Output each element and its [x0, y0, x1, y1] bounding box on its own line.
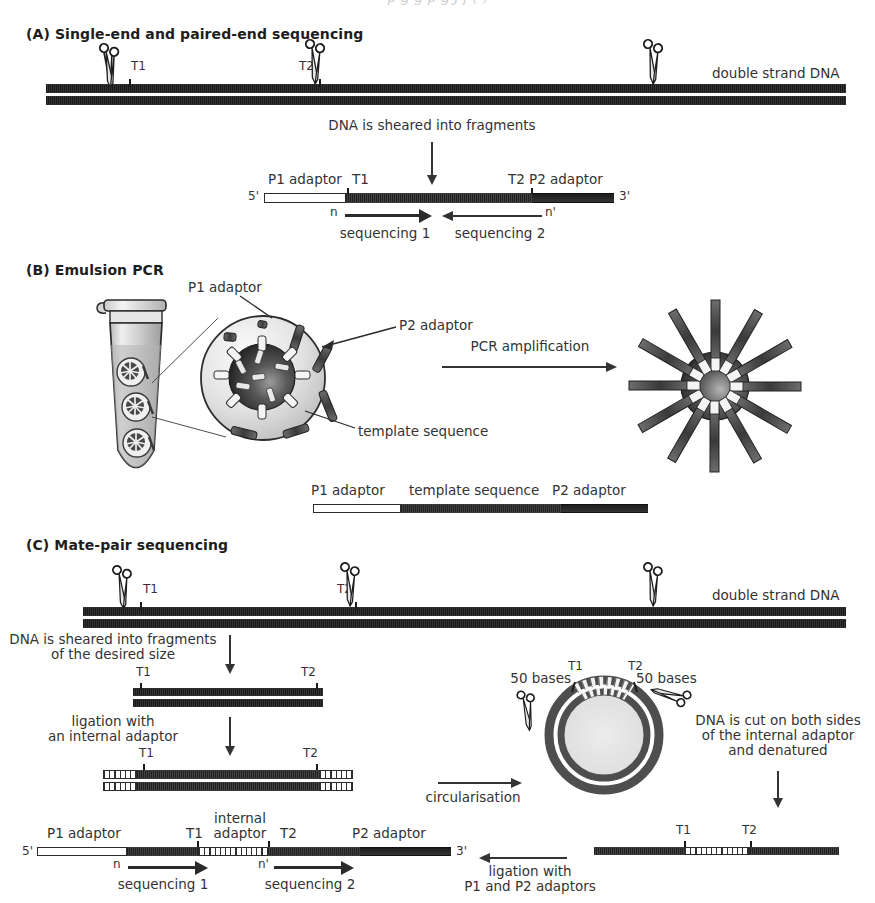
panel-c-final-5prime: 5' — [22, 845, 33, 858]
magnified-droplet — [201, 316, 338, 440]
panel-a-label-t2: T2 — [299, 60, 314, 73]
amplified-bead — [629, 300, 801, 472]
panel-c-frag2-adaptor-left — [103, 770, 137, 779]
template-callout-leader — [305, 411, 355, 428]
panel-c-final-t2-label: T2 — [280, 826, 297, 841]
panel-b-legend-template: template sequence — [409, 483, 539, 498]
panel-c-cut-t2: T2 — [742, 824, 757, 837]
emulsion-droplet — [122, 393, 153, 421]
scissors-icon — [504, 687, 547, 730]
panel-a-shear-label: DNA is sheared into fragments — [328, 118, 535, 133]
internal-adaptor-arc-inner — [583, 691, 626, 697]
panel-c-final-bar — [37, 847, 451, 856]
panel-a-seq1-arrow — [345, 214, 420, 217]
panel-c-cut-tick-t2 — [750, 841, 752, 847]
panel-c-final-seg-tmpl1 — [127, 847, 198, 856]
panel-a-frag-t1-label: T1 — [352, 172, 369, 187]
panel-a-frag-p1-label: P1 adaptor — [268, 172, 342, 187]
panel-c-ligation-label: ligation with an internal adaptor — [48, 714, 178, 744]
panel-c-frag1-tick-t2 — [316, 683, 318, 689]
scissors-icon — [97, 562, 144, 609]
panel-c-frag2-bottom — [103, 782, 353, 791]
panel-b-legend-seg-p2 — [561, 504, 648, 513]
panel-b-legend-seg-template — [401, 504, 561, 513]
panel-b-pcr-arrow — [442, 366, 607, 368]
panel-c-cut-arrow — [777, 771, 779, 799]
panel-c-final-nprime: n' — [258, 858, 269, 871]
panel-a-seg-template — [346, 193, 532, 203]
panel-c-shear-arrow — [229, 635, 231, 665]
panel-c-final-seq1-arrow — [128, 866, 196, 869]
scissors-icon — [628, 559, 675, 606]
panel-c-frag2-adaptor-right — [319, 770, 353, 779]
panel-a-seq1-label: sequencing 1 — [340, 226, 431, 241]
panel-a-dna-label: double strand DNA — [712, 66, 840, 81]
panel-a-tick-t1 — [129, 79, 131, 87]
circularised-dna — [549, 680, 659, 790]
panel-a-seg-p2 — [532, 193, 614, 203]
panel-a-nprime-label: n' — [545, 206, 556, 219]
panel-b-legend-bar — [313, 504, 648, 513]
panel-c-final-seg-p1 — [37, 847, 127, 856]
panel-c-frag2b-template — [137, 782, 319, 791]
panel-c-left-bases: 50 bases — [510, 671, 571, 686]
panel-c-tick-t2 — [355, 602, 357, 610]
panel-b-graphics — [0, 0, 875, 903]
panel-b-template-callout: template sequence — [358, 424, 488, 439]
panel-a-label-t1: T1 — [131, 60, 146, 73]
panel-b-title: (B) Emulsion PCR — [26, 262, 164, 278]
panel-a-fragment-bar — [264, 193, 614, 203]
panel-c-cut-seg-right — [750, 847, 839, 855]
panel-c-dna-label: double strand DNA — [712, 588, 840, 603]
panel-c-shear-label: DNA is sheared into fragments of the des… — [9, 632, 216, 662]
panel-c-frag2b-adaptor-left — [103, 782, 137, 791]
panel-c-final-p2-label: P2 adaptor — [352, 826, 426, 841]
panel-c-final-seq2-arrow — [274, 866, 342, 869]
panel-a-title: (A) Single-end and paired-end sequencing — [26, 26, 363, 42]
panel-a-frag-p2-label: P2 adaptor — [529, 172, 603, 187]
panel-c-final-ligation-arrow — [489, 857, 567, 859]
panel-a-seg-p1 — [264, 193, 346, 203]
panel-c-final-seq2-label: sequencing 2 — [265, 877, 356, 892]
clipped-header-text: p g g p g j f ( ) — [0, 0, 875, 7]
panel-a-tick-t2 — [319, 79, 321, 87]
panel-c-frag1-top — [133, 688, 323, 696]
panel-c-frag2-tick-t1 — [143, 764, 145, 770]
panel-c-cut-label: DNA is cut on both sides of the internal… — [695, 713, 860, 758]
panel-c-final-seg-tmpl2 — [268, 847, 360, 856]
figure-root: p g g p g j f ( ) (A) Single-end and pai… — [0, 0, 875, 903]
panel-c-cut-fragment — [594, 847, 839, 855]
emulsion-droplet — [117, 358, 148, 386]
panel-c-frag2-top — [103, 770, 353, 779]
scissors-icon — [84, 40, 132, 88]
panel-c-ligation-arrow — [229, 717, 231, 747]
panel-c-cut-seg-left — [594, 847, 684, 855]
panel-b-p1-callout: P1 adaptor — [188, 280, 262, 295]
magnify-leader-line — [152, 318, 218, 383]
panel-c-circularisation-arrow — [438, 782, 512, 784]
panel-c-frag2-t1: T1 — [139, 747, 154, 760]
panel-c-final-tick-t2 — [268, 841, 270, 847]
panel-c-frag2-template — [137, 770, 319, 779]
panel-c-final-internal-label: internal adaptor — [214, 811, 267, 841]
panel-a-seq2-label: sequencing 2 — [455, 226, 546, 241]
panel-c-strand-top — [83, 607, 846, 616]
panel-b-legend-seg-p1 — [313, 504, 401, 513]
panel-c-label-t1: T1 — [143, 583, 158, 596]
panel-c-frag1-bottom — [133, 699, 323, 707]
panel-a-strand-bottom — [46, 96, 846, 105]
panel-c-final-p1-label: P1 adaptor — [47, 826, 121, 841]
panel-b-legend-p1: P1 adaptor — [311, 483, 385, 498]
panel-a-seq2-arrow — [452, 215, 542, 217]
panel-a-shear-arrow — [431, 142, 433, 176]
panel-a-frag-tick-t2 — [531, 188, 533, 194]
panel-c-final-tick-t1 — [197, 841, 199, 847]
panel-c-cut-t1: T1 — [676, 824, 691, 837]
panel-c-cut-tick-t1 — [684, 841, 686, 847]
panel-b-p2-callout: P2 adaptor — [399, 318, 473, 333]
panel-c-frag1-t1: T1 — [136, 666, 151, 679]
panel-c-final-ligation-label: ligation with P1 and P2 adaptors — [464, 864, 596, 894]
eppendorf-tube-icon — [97, 300, 166, 468]
panel-c-label-t2: T2 — [337, 583, 352, 596]
panel-a-n-label: n — [330, 206, 338, 219]
